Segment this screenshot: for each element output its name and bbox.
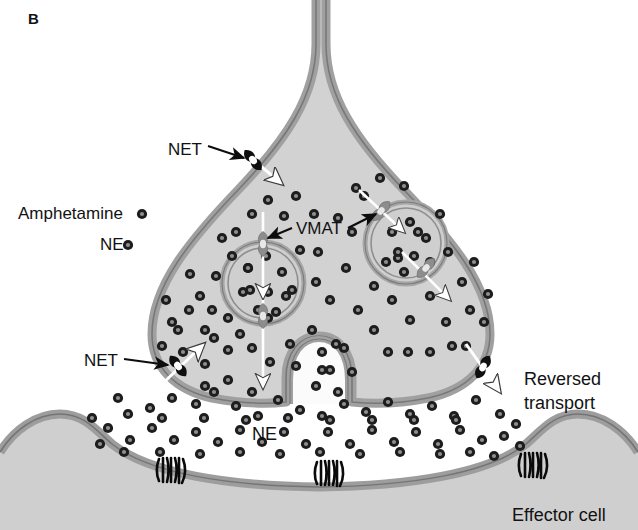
particle-dot	[309, 209, 319, 219]
particle-dot	[425, 347, 435, 357]
particle-dot	[409, 415, 419, 425]
panel-label: B	[28, 10, 39, 27]
particle-dot	[247, 343, 257, 353]
particle-dot	[341, 263, 351, 273]
particle-dot	[311, 277, 321, 287]
particle-dot	[200, 325, 210, 335]
particle-dot	[315, 447, 325, 457]
particle-dot	[279, 427, 289, 437]
particle-dot	[231, 227, 241, 237]
particle-dot	[435, 449, 445, 459]
particle-dot	[367, 415, 377, 425]
label-reversed-transport-line1: Reversed	[524, 369, 601, 389]
particle-dot	[465, 305, 475, 315]
particle-dot	[200, 359, 210, 369]
particle-dot	[291, 361, 301, 371]
particle-dot	[125, 435, 135, 445]
particle-dot	[339, 399, 349, 409]
particle-dot	[161, 295, 171, 305]
particle-dot	[119, 447, 129, 457]
particle-dot	[279, 211, 289, 221]
particle-dot	[307, 325, 317, 335]
particle-dot	[95, 439, 105, 449]
particle-dot	[381, 257, 391, 267]
particle-dot	[195, 291, 205, 301]
particle-dot	[277, 267, 287, 277]
particle-dot	[405, 315, 415, 325]
particle-dot	[155, 447, 165, 457]
particle-dot	[457, 277, 467, 287]
particle-dot	[313, 247, 323, 257]
particle-dot	[515, 441, 525, 451]
particle-dot	[245, 285, 255, 295]
particle-dot	[375, 173, 385, 183]
particle-dot	[399, 181, 409, 191]
particle-dot	[241, 415, 251, 425]
particle-dot	[265, 357, 275, 367]
particle-dot	[455, 425, 465, 435]
particle-dot	[477, 435, 487, 445]
particle-dot	[489, 451, 499, 461]
particle-dot	[403, 347, 413, 357]
particle-dot	[103, 423, 113, 433]
label-net-left: NET	[84, 351, 118, 370]
legend-marker-ne	[123, 240, 133, 250]
particle-dot	[511, 419, 521, 429]
particle-dot	[433, 439, 443, 449]
particle-dot	[223, 313, 233, 323]
particle-dot	[209, 333, 219, 343]
particle-dot	[283, 413, 293, 423]
particle-dot	[301, 439, 311, 449]
particle-dot	[421, 233, 431, 243]
particle-dot	[325, 295, 335, 305]
particle-dot	[495, 409, 505, 419]
particle-dot	[207, 305, 217, 315]
particle-dot	[471, 395, 481, 405]
particle-dot	[435, 209, 445, 219]
particle-dot	[231, 401, 241, 411]
particle-dot	[281, 291, 291, 301]
particle-dot	[427, 401, 437, 411]
particle-dot	[123, 409, 133, 419]
particle-dot	[253, 411, 263, 421]
particle-dot	[200, 381, 210, 391]
figure-panel-b: B Amphetamine NE NET NET VMAT NE Reverse…	[0, 0, 638, 530]
label-vmat: VMAT	[296, 219, 342, 238]
particle-dot	[317, 347, 327, 357]
particle-dot	[273, 395, 283, 405]
amphetamine-nerve-terminal-diagram: B Amphetamine NE NET NET VMAT NE Reverse…	[0, 0, 638, 530]
particle-dot	[295, 405, 305, 415]
particle-dot	[347, 367, 357, 377]
particle-dot	[263, 287, 273, 297]
particle-dot	[243, 263, 253, 273]
particle-dot	[411, 427, 421, 437]
label-net-top: NET	[168, 140, 202, 159]
particle-dot	[223, 375, 233, 385]
particle-dot	[405, 217, 415, 227]
particle-dot	[213, 437, 223, 447]
label-reversed-transport-line2: transport	[524, 393, 595, 413]
particle-dot	[247, 209, 257, 219]
particle-dot	[235, 329, 245, 339]
particle-dot	[387, 227, 397, 237]
particle-dot	[247, 387, 257, 397]
particle-dot	[325, 365, 335, 375]
particle-dot	[211, 271, 221, 281]
legend-marker-amphetamine	[137, 209, 147, 219]
particle-dot	[441, 317, 451, 327]
particle-dot	[389, 437, 399, 447]
particle-dot	[195, 449, 205, 459]
particle-dot	[425, 291, 435, 301]
particle-dot	[451, 415, 461, 425]
particle-dot	[355, 449, 365, 459]
particle-dot	[169, 435, 179, 445]
particle-dot	[447, 341, 457, 351]
particle-dot	[87, 413, 97, 423]
particle-dot	[339, 343, 349, 353]
particle-dot	[399, 267, 409, 277]
particle-dot	[147, 423, 157, 433]
particle-dot	[465, 447, 475, 457]
particle-dot	[217, 233, 227, 243]
legend-label-amphetamine: Amphetamine	[18, 204, 123, 223]
legend-label-ne: NE	[100, 235, 124, 254]
